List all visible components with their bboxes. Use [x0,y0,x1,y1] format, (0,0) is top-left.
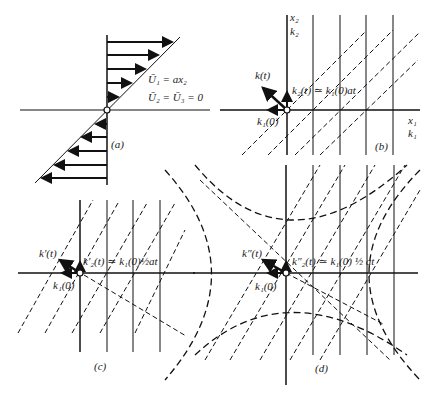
caption-a: (a) [111,138,124,150]
vector-label-k-prime: k′(t) [39,248,57,259]
caption-c: (c) [94,360,106,372]
caption-d: (d) [315,362,328,374]
vector-label-k-t: k(t) [255,70,270,81]
k1-0-label-c: k₁(0) [53,280,75,291]
axis-label-k1: k₁ [408,128,417,139]
caption-b: (b) [375,140,388,152]
k2-approx-label: k₂(t) ≃ k₁(0)at [292,85,356,96]
equation-u2-u3: Ū₂ = Ū₃ = 0 [148,92,203,103]
panel-d-hyperbolic-trajectories [165,165,420,385]
k1-0-label-d: k₁(0) [255,281,277,292]
panel-c-tilted-wave [18,200,195,352]
diagram-canvas [0,0,433,394]
vector-label-k-double-prime: k″(t) [242,248,262,259]
k2-prime-approx-label: k′₂(t) ≃ k₁(0)½at [83,256,158,267]
axis-label-k2: k₂ [290,26,299,37]
axis-label-x2: x₂ [290,12,299,23]
panel-a-shear-profile [20,35,210,185]
k2-double-prime-approx-label: k″₂(t) ≃ k₁(0) ½ at [292,256,374,267]
axis-label-x1: x₁ [408,115,417,126]
k1-0-label: k₁(0) [257,116,279,127]
equation-u1: Ū₁ = ax₂ [148,74,187,85]
